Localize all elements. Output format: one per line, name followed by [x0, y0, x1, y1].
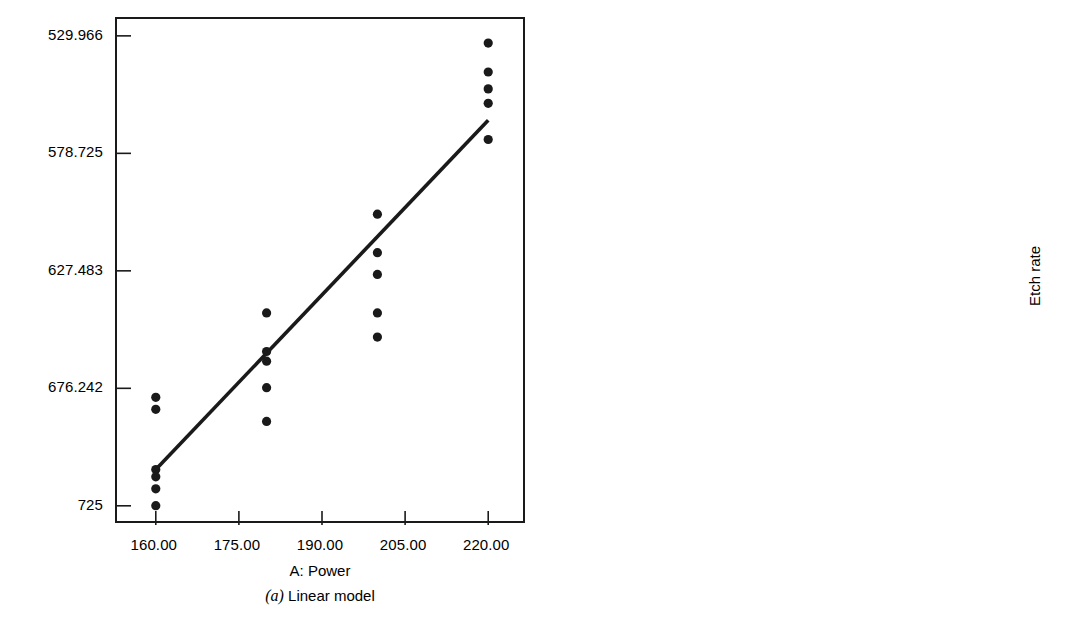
- data-point: [151, 405, 160, 414]
- caption-label-a: (a): [265, 587, 284, 604]
- fitted-line-curve: [156, 120, 488, 469]
- data-point: [151, 472, 160, 481]
- y-tick-label: 529.966: [3, 26, 103, 41]
- data-point: [151, 484, 160, 493]
- data-point: [262, 417, 271, 426]
- x-axis-title-a: A: Power: [290, 562, 351, 579]
- y-tick-label: 627.483: [3, 261, 103, 276]
- y-tick-label: 725: [1064, 496, 1071, 511]
- data-point: [151, 501, 160, 510]
- data-point: [484, 84, 493, 93]
- data-point: [151, 393, 160, 402]
- y-tick-label: 578.725: [3, 144, 103, 159]
- data-point: [373, 210, 382, 219]
- data-point: [373, 308, 382, 317]
- data-point: [262, 347, 271, 356]
- y-tick-label: 530: [1064, 26, 1071, 41]
- data-point: [373, 248, 382, 257]
- data-point: [484, 135, 493, 144]
- plot-canvas-a: [117, 19, 527, 525]
- y-tick-label: 676.242: [3, 379, 103, 394]
- x-tick-label: 205.00: [380, 537, 426, 552]
- caption-text-a: Linear model: [284, 587, 375, 604]
- data-point: [262, 308, 271, 317]
- panel-caption-a: (a) Linear model: [265, 587, 375, 605]
- data-point: [484, 99, 493, 108]
- y-tick-label: 578.75: [1064, 144, 1071, 159]
- x-tick-label: 160.00: [131, 537, 177, 552]
- panel-quadratic-model: 725676.25627.5578.75530 160.00175.00190.…: [536, 0, 1071, 625]
- data-point: [262, 357, 271, 366]
- data-point: [373, 332, 382, 341]
- figure-root: 725676.242627.483578.725529.966 160.0017…: [0, 0, 1071, 625]
- y-tick-label: 676.25: [1064, 379, 1071, 394]
- panel-linear-model: 725676.242627.483578.725529.966 160.0017…: [0, 0, 535, 625]
- x-tick-label: 175.00: [214, 537, 260, 552]
- y-axis-title-b: Etch rate: [1026, 246, 1043, 306]
- plot-frame-a: [115, 17, 525, 523]
- data-point: [373, 270, 382, 279]
- x-tick-label: 220.00: [463, 537, 509, 552]
- x-tick-label: 190.00: [297, 537, 343, 552]
- y-tick-label: 725: [3, 496, 103, 511]
- data-point: [484, 67, 493, 76]
- data-point: [262, 383, 271, 392]
- data-point: [484, 38, 493, 47]
- y-tick-label: 627.5: [1064, 261, 1071, 276]
